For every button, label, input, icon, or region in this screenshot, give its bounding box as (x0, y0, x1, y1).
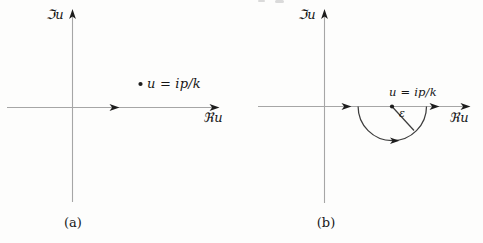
real-axis-label-a: ℜu (203, 111, 223, 124)
imag-axis-label-b: ℑu (298, 8, 316, 21)
diagram-linework (0, 0, 483, 243)
panel-caption-a: (a) (60, 216, 86, 229)
imag-axis-label-a: ℑu (46, 8, 64, 21)
real-axis-label-b: ℜu (449, 111, 469, 124)
panel-a-axes (7, 9, 220, 202)
panel-caption-b: (b) (313, 216, 339, 229)
pole-point-a (138, 82, 142, 86)
epsilon-label-b: ε (399, 108, 405, 119)
pole-label-a: u = ip/k (147, 77, 201, 90)
panel-b-axes (258, 9, 471, 203)
pole-label-b: u = ip/k (389, 87, 437, 99)
pole-point-b (390, 104, 394, 108)
semicircle-contour-b (358, 107, 426, 141)
complex-plane-contour-figure: ℑu u = ip/k ℜu (a) ℑu u = ip/k ε ℜu (b) (0, 0, 483, 243)
